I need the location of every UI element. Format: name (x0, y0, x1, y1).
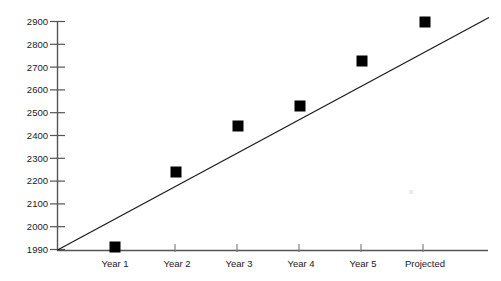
data-point-projected (420, 17, 431, 28)
y-tick-label-2500: 2500 (8, 108, 48, 118)
y-tick-label-2700: 2700 (8, 63, 48, 73)
y-tick-label-2300: 2300 (8, 154, 48, 164)
chart-container: 2900 2800 2700 2600 2500 2400 2300 2200 … (0, 0, 501, 281)
x-tick-label-projected: Projected (389, 259, 461, 269)
y-tick-label-2900: 2900 (8, 17, 48, 27)
trend-line (58, 18, 490, 251)
data-point-year-4 (295, 101, 306, 112)
y-tick-label-2000: 2000 (8, 222, 48, 232)
data-point-year-3 (233, 121, 244, 132)
image-artifact-speck (409, 190, 413, 194)
y-tick-label-2200: 2200 (8, 176, 48, 186)
data-point-year-1 (110, 242, 121, 253)
y-tick-label-2800: 2800 (8, 40, 48, 50)
data-point-year-2 (171, 167, 182, 178)
y-tick-label-2400: 2400 (8, 131, 48, 141)
y-tick-label-1990: 1990 (8, 245, 48, 255)
data-point-markers (110, 17, 431, 253)
y-tick-label-2100: 2100 (8, 199, 48, 209)
data-point-year-5 (357, 56, 368, 67)
chart-plot-area (0, 0, 501, 281)
y-tick-label-2600: 2600 (8, 85, 48, 95)
